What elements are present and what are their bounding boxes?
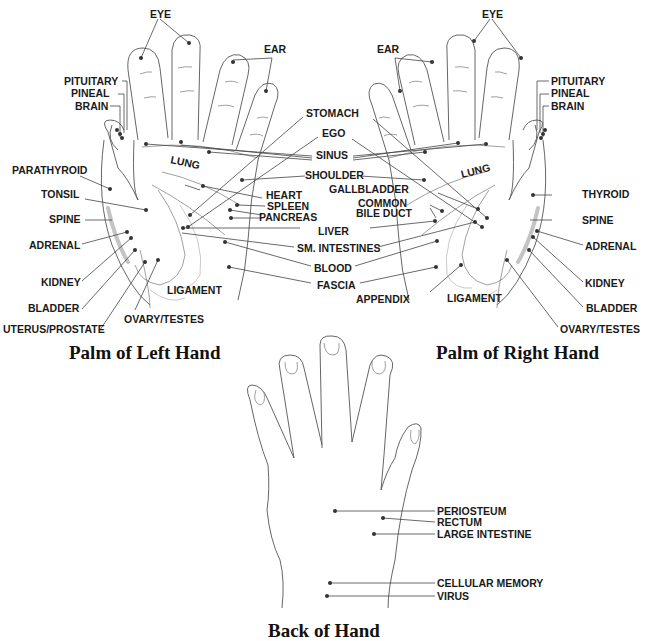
left-pineal-label: PINEAL <box>71 87 110 99</box>
thyroid-label: THYROID <box>582 188 630 200</box>
blood-label: BLOOD <box>314 262 352 274</box>
left-spine-marker <box>108 208 128 262</box>
liver-label: LIVER <box>318 225 349 237</box>
left-lung-label: LUNG <box>170 153 202 171</box>
shoulder-label: SHOULDER <box>305 169 364 181</box>
left-ligament-label: LIGAMENT <box>167 284 222 296</box>
left-bladder-label: BLADDER <box>28 302 80 314</box>
left-pituitary-label: PITUITARY <box>64 75 118 87</box>
virus-label: VIRUS <box>437 590 469 602</box>
large-intestine-label: LARGE INTESTINE <box>437 528 532 540</box>
right-lung-label: LUNG <box>460 161 492 180</box>
right-ear-label: EAR <box>377 43 400 55</box>
caption-back-of-hand: Back of Hand <box>268 620 380 641</box>
fascia-label: FASCIA <box>317 279 356 291</box>
stomach-label: STOMACH <box>306 107 359 119</box>
ego-label: EGO <box>322 127 345 139</box>
left-eye-label: EYE <box>150 8 171 20</box>
cellular-memory-label: CELLULAR MEMORY <box>437 577 543 589</box>
right-eye-label: EYE <box>482 8 503 20</box>
left-palm-outline <box>101 35 278 308</box>
left-brain-label: BRAIN <box>75 100 108 112</box>
right-ligament-label: LIGAMENT <box>447 292 502 304</box>
left-ear-label: EAR <box>264 43 287 55</box>
pancreas-label: PANCREAS <box>259 211 317 223</box>
sm-intestines-label: SM. INTESTINES <box>297 242 380 254</box>
caption-left-palm: Palm of Left Hand <box>69 342 221 363</box>
right-pineal-label: PINEAL <box>551 87 590 99</box>
hand-reflexology-diagram: EYE EAR PITUITARY PINEAL BRAIN PARATHYRO… <box>0 0 647 641</box>
caption-right-palm: Palm of Right Hand <box>436 342 600 363</box>
left-adrenal-label: ADRENAL <box>29 239 81 251</box>
right-ovary-testes-label: OVARY/TESTES <box>560 323 640 335</box>
back-of-hand-outline <box>247 336 421 608</box>
right-kidney-label: KIDNEY <box>585 277 625 289</box>
right-palm-outline <box>369 35 546 308</box>
left-parathyroid-label: PARATHYROID <box>12 164 88 176</box>
gallbladder-label: GALLBLADDER <box>329 183 409 195</box>
sinus-label: SINUS <box>316 149 348 161</box>
back-of-hand-leaders <box>325 509 435 598</box>
right-brain-label: BRAIN <box>551 100 584 112</box>
left-uterus-prostate-label: UTERUS/PROSTATE <box>3 323 105 335</box>
right-spine-marker <box>518 208 538 262</box>
center-leaders <box>144 117 489 283</box>
right-spine-label: SPINE <box>582 214 614 226</box>
right-adrenal-label: ADRENAL <box>585 240 637 252</box>
right-bladder-label: BLADDER <box>586 302 638 314</box>
left-kidney-label: KIDNEY <box>41 276 81 288</box>
left-spine-label: SPINE <box>49 213 81 225</box>
bile-duct-label: BILE DUCT <box>356 207 413 219</box>
appendix-label: APPENDIX <box>356 293 410 305</box>
left-tonsil-label: TONSIL <box>41 188 80 200</box>
left-ovary-testes-label: OVARY/TESTES <box>124 313 204 325</box>
rectum-label: RECTUM <box>437 516 482 528</box>
right-pituitary-label: PITUITARY <box>551 75 605 87</box>
